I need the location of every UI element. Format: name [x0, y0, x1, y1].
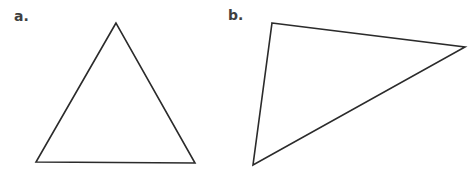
triangles-diagram	[0, 0, 475, 176]
triangle-a	[36, 23, 195, 163]
triangle-b	[253, 23, 465, 165]
